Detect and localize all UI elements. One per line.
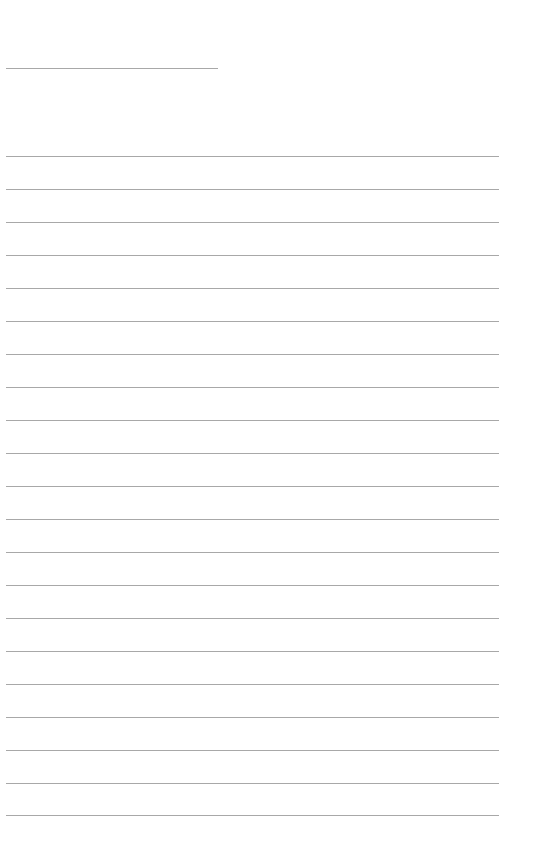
ruled-line xyxy=(6,750,499,751)
ruled-line xyxy=(6,684,499,685)
ruled-line xyxy=(6,585,499,586)
ruled-line xyxy=(6,519,499,520)
ruled-line xyxy=(6,420,499,421)
ruled-line xyxy=(6,387,499,388)
ruled-line xyxy=(6,717,499,718)
ruled-line xyxy=(6,156,499,157)
ruled-line xyxy=(6,288,499,289)
ruled-line xyxy=(6,255,499,256)
ruled-line xyxy=(6,618,499,619)
header-line xyxy=(6,68,218,69)
ruled-line xyxy=(6,453,499,454)
ruled-line xyxy=(6,354,499,355)
ruled-line xyxy=(6,321,499,322)
ruled-line xyxy=(6,486,499,487)
ruled-line xyxy=(6,651,499,652)
ruled-line xyxy=(6,552,499,553)
ruled-line xyxy=(6,189,499,190)
ruled-line xyxy=(6,815,499,816)
ruled-line xyxy=(6,783,499,784)
ruled-line xyxy=(6,222,499,223)
